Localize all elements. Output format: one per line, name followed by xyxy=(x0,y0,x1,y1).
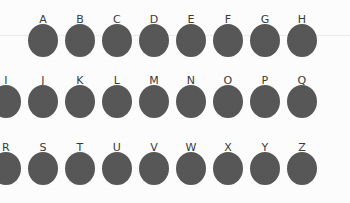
spot-marker[interactable] xyxy=(287,24,317,57)
spot-marker[interactable] xyxy=(65,24,95,57)
spot-marker[interactable] xyxy=(28,85,58,118)
spot-marker[interactable] xyxy=(139,85,169,118)
spot-marker[interactable] xyxy=(250,85,280,118)
spot-marker[interactable] xyxy=(0,85,21,118)
spot-marker[interactable] xyxy=(250,24,280,57)
spot-marker[interactable] xyxy=(287,85,317,118)
spot-marker[interactable] xyxy=(176,152,206,185)
spot-marker[interactable] xyxy=(102,152,132,185)
spot-marker[interactable] xyxy=(28,24,58,57)
spot-marker[interactable] xyxy=(213,85,243,118)
spot-marker[interactable] xyxy=(213,152,243,185)
spot-marker[interactable] xyxy=(0,152,21,185)
spot-marker[interactable] xyxy=(176,24,206,57)
spot-marker[interactable] xyxy=(139,24,169,57)
spot-marker[interactable] xyxy=(102,85,132,118)
spot-marker[interactable] xyxy=(287,152,317,185)
spot-array-figure: ABCDEFGHIJKLMNOPQRSTUVWXYZ xyxy=(0,0,350,203)
spot-marker[interactable] xyxy=(102,24,132,57)
spot-marker[interactable] xyxy=(65,152,95,185)
spot-marker[interactable] xyxy=(139,152,169,185)
spot-marker[interactable] xyxy=(213,24,243,57)
spot-marker[interactable] xyxy=(28,152,58,185)
spot-marker[interactable] xyxy=(65,85,95,118)
spot-marker[interactable] xyxy=(176,85,206,118)
spot-marker[interactable] xyxy=(250,152,280,185)
